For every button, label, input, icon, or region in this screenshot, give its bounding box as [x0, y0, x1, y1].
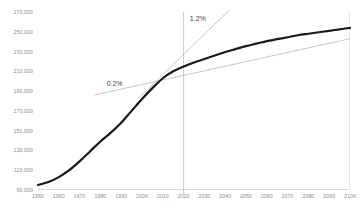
chart-graphics: [0, 0, 360, 215]
annotation-low-growth-rate: 0.2%: [107, 80, 123, 87]
trendline-group: [94, 10, 350, 99]
annotation-high-growth-rate: 1.2%: [190, 15, 206, 22]
chart-container: 270,000250,000230,000210,000190,000170,0…: [0, 0, 360, 215]
population-line: [38, 28, 350, 185]
low-growth-trendline: [94, 39, 350, 95]
series-group: [38, 28, 350, 185]
